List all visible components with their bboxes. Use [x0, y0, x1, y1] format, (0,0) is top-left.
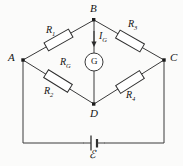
node-label-d: D — [90, 108, 98, 119]
galvanometer-letter-g: G — [91, 57, 98, 66]
node-label-c: C — [170, 52, 177, 63]
current-label-ig: IG — [99, 31, 107, 44]
current-arrow-ig-icon — [91, 31, 96, 47]
node-label-a: A — [8, 52, 15, 63]
resistor-label-r4-subscript: 4 — [132, 95, 135, 102]
circuit-diagram-figure: B A C D R1 R3 R2 R4 RG G IG ℰ — [0, 0, 183, 166]
galvanometer-resistance-subscript: G — [66, 62, 71, 69]
emf-source-label: ℰ — [89, 149, 96, 160]
node-label-b: B — [90, 3, 97, 14]
resistor-label-r2: R2 — [44, 86, 53, 99]
node-dot-a — [21, 58, 24, 61]
resistor-label-r4: R4 — [126, 90, 135, 103]
current-label-ig-subscript: G — [102, 36, 107, 43]
circuit-schematic-canvas — [0, 0, 183, 166]
resistor-label-r1-subscript: 1 — [52, 30, 55, 37]
galvanometer-resistance-label: RG — [60, 57, 71, 70]
resistor-label-r3: R3 — [128, 19, 137, 32]
node-dot-d — [92, 102, 95, 105]
resistor-label-r2-subscript: 2 — [50, 91, 53, 98]
resistor-r3-symbol — [116, 30, 145, 52]
resistor-label-r1: R1 — [46, 25, 55, 38]
node-dot-b — [92, 18, 95, 21]
resistor-label-r3-subscript: 3 — [134, 24, 137, 31]
node-dot-c — [162, 58, 165, 61]
